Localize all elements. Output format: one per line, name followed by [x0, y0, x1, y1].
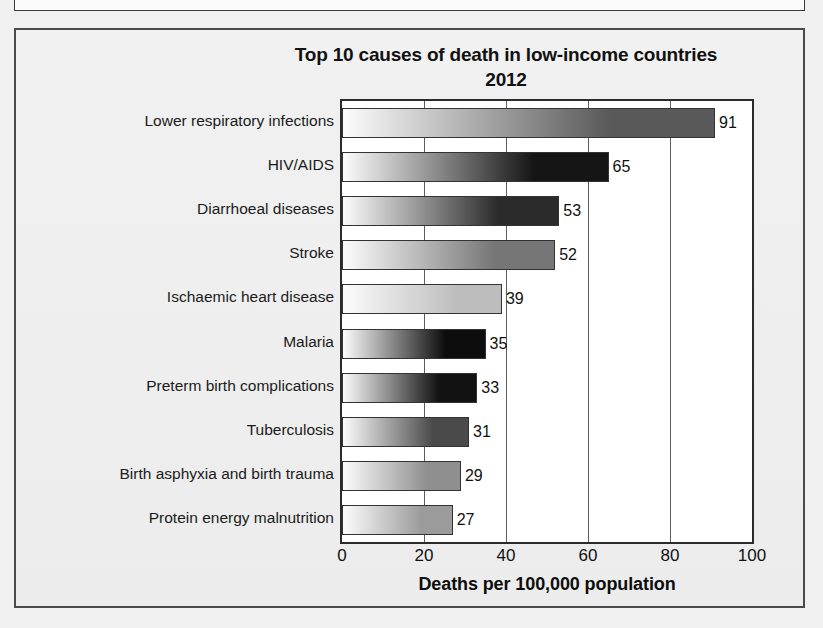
bar-row: 33 [342, 373, 752, 403]
bar-value-label: 52 [555, 246, 577, 264]
bar[interactable] [342, 152, 609, 182]
bar-row: 31 [342, 417, 752, 447]
x-tick-20: 20 [415, 546, 434, 566]
category-label: Stroke [24, 245, 334, 261]
category-label: Diarrhoeal diseases [24, 201, 334, 217]
bar[interactable] [342, 329, 486, 359]
bar[interactable] [342, 108, 715, 138]
x-tick-40: 40 [497, 546, 516, 566]
bar-value-label: 35 [486, 335, 508, 353]
bar[interactable] [342, 373, 477, 403]
bar[interactable] [342, 240, 555, 270]
top-edge-strip [14, 0, 805, 11]
bar[interactable] [342, 284, 502, 314]
bar-value-label: 27 [453, 511, 475, 529]
bar[interactable] [342, 196, 559, 226]
x-tick-0: 0 [337, 546, 346, 566]
bar-value-label: 53 [559, 202, 581, 220]
bar[interactable] [342, 505, 453, 535]
bar-value-label: 31 [469, 423, 491, 441]
bar-rows: 91655352393533312927 [342, 101, 752, 542]
category-label: Malaria [24, 334, 334, 350]
category-axis-labels: Lower respiratory infectionsHIV/AIDSDiar… [16, 99, 334, 544]
x-tick-60: 60 [579, 546, 598, 566]
x-tick-100: 100 [738, 546, 766, 566]
chart-title: Top 10 causes of death in low-income cou… [256, 42, 756, 92]
bar-value-label: 39 [502, 290, 524, 308]
category-label: Ischaemic heart disease [24, 289, 334, 305]
x-axis-label: Deaths per 100,000 population [340, 574, 754, 595]
category-label: Protein energy malnutrition [24, 510, 334, 526]
bar-row: 53 [342, 196, 752, 226]
bar-value-label: 91 [715, 114, 737, 132]
figure-frame: Top 10 causes of death in low-income cou… [14, 28, 805, 608]
category-label: Tuberculosis [24, 422, 334, 438]
bar-row: 35 [342, 329, 752, 359]
bar-value-label: 65 [609, 158, 631, 176]
bar-row: 29 [342, 461, 752, 491]
category-label: HIV/AIDS [24, 157, 334, 173]
bar-row: 27 [342, 505, 752, 535]
bar-value-label: 33 [477, 379, 499, 397]
bar-row: 65 [342, 152, 752, 182]
bar-row: 39 [342, 284, 752, 314]
category-label: Preterm birth complications [24, 378, 334, 394]
chart-title-line1: Top 10 causes of death in low-income cou… [295, 44, 717, 65]
category-label: Lower respiratory infections [24, 113, 334, 129]
x-axis-ticks: 020406080100 [340, 546, 754, 570]
bar-row: 52 [342, 240, 752, 270]
chart-title-line2: 2012 [256, 67, 756, 92]
plot-area: 91655352393533312927 [340, 99, 754, 544]
bar[interactable] [342, 417, 469, 447]
bar-row: 91 [342, 108, 752, 138]
bar-value-label: 29 [461, 467, 483, 485]
category-label: Birth asphyxia and birth trauma [24, 466, 334, 482]
bar[interactable] [342, 461, 461, 491]
x-tick-80: 80 [661, 546, 680, 566]
